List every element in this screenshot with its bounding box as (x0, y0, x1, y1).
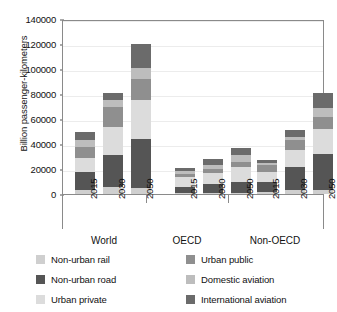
bar-segment-international-aviation (103, 93, 123, 101)
legend-item-domestic-aviation: Domestic aviation (186, 274, 274, 285)
bar-segment-international-aviation (75, 132, 95, 141)
bar-segment-domestic-aviation (75, 140, 95, 146)
legend-item-label: Non-urban rail (51, 254, 110, 265)
gridline (63, 71, 323, 72)
x-axis-group-label-non-oecd: Non-OECD (250, 235, 301, 246)
legend-item-label: International aviation (201, 294, 286, 305)
legend-item-label: Non-urban road (51, 274, 116, 285)
bar-segment-urban-public (257, 165, 277, 172)
x-axis-tick-label: 2015 (189, 179, 199, 199)
bar-segment-urban-public (75, 147, 95, 158)
gridline (63, 121, 323, 122)
x-axis-group-separator (228, 195, 229, 203)
x-axis-group-separator (146, 195, 147, 203)
x-axis-group-label-oecd: OECD (173, 235, 202, 246)
bar-segment-domestic-aviation (175, 171, 195, 174)
x-axis-band: 201520302050201520302050201520302050Worl… (62, 195, 324, 246)
legend-swatch-icon (36, 255, 45, 264)
x-axis-tick-label: 2050 (327, 179, 337, 199)
legend-item-international-aviation: International aviation (186, 294, 286, 305)
bar-segment-international-aviation (285, 130, 305, 136)
y-axis-tick-label: 20000 (31, 165, 56, 175)
x-axis-tick-label: 2030 (117, 179, 127, 199)
x-axis-group-separator (62, 195, 63, 229)
bar-segment-international-aviation (175, 168, 195, 171)
y-axis-tick-label: 120000 (25, 40, 56, 50)
y-axis-tick-label: 100000 (25, 65, 56, 75)
gridline (63, 146, 323, 147)
legend-item-urban-private: Urban private (36, 294, 107, 305)
legend-item-urban-public: Urban public (186, 254, 253, 265)
legend-swatch-icon (186, 295, 195, 304)
bar-segment-urban-public (175, 174, 195, 177)
legend-swatch-icon (186, 275, 195, 284)
legend-item-non-urban-rail: Non-urban rail (36, 254, 110, 265)
bar-segment-international-aviation (231, 148, 251, 156)
bar-segment-domestic-aviation (313, 108, 333, 117)
bar-segment-urban-private (75, 158, 95, 172)
bar-segment-urban-private (313, 129, 333, 154)
y-axis-tick-labels: 020000400006000080000100000120000140000 (6, 14, 60, 202)
bar-segment-urban-private (103, 127, 123, 156)
x-axis-group-label-world: World (91, 235, 117, 246)
legend-item-label: Urban private (51, 294, 107, 305)
bar-segment-urban-public (131, 79, 151, 100)
y-axis-tick-label: 140000 (25, 15, 56, 25)
legend-item-non-urban-road: Non-urban road (36, 274, 116, 285)
legend-swatch-icon (36, 275, 45, 284)
bar-segment-international-aviation (203, 159, 223, 165)
y-axis-tick-label: 40000 (31, 140, 56, 150)
legend-item-label: Urban public (201, 254, 253, 265)
y-axis-tick-label: 60000 (31, 115, 56, 125)
bar-segment-international-aviation (131, 44, 151, 68)
x-axis-tick-label: 2030 (217, 179, 227, 199)
bar-segment-urban-private (285, 150, 305, 168)
bar-segment-urban-public (313, 117, 333, 130)
gridline (63, 21, 323, 22)
x-axis-tick-label: 2015 (271, 179, 281, 199)
bar-segment-international-aviation (313, 93, 333, 108)
x-axis-tick-label: 2030 (299, 179, 309, 199)
gridline (63, 96, 323, 97)
plot-axes (62, 20, 324, 195)
gridline (63, 46, 323, 47)
bar-segment-domestic-aviation (231, 155, 251, 161)
bar-segment-urban-public (231, 162, 251, 167)
y-axis-tick-label: 0 (51, 190, 56, 200)
legend-swatch-icon (36, 295, 45, 304)
chart-legend: Non-urban railNon-urban roadUrban privat… (0, 248, 332, 312)
bar-segment-urban-public (103, 107, 123, 127)
bar-segment-domestic-aviation (131, 68, 151, 79)
legend-item-label: Domestic aviation (201, 274, 274, 285)
bar-segment-domestic-aviation (257, 163, 277, 165)
plot-area-wrapper: Billion passenger-kilometers 02000040000… (0, 0, 332, 246)
bar-segment-domestic-aviation (285, 137, 305, 141)
x-axis-tick-label: 2015 (89, 179, 99, 199)
x-axis-tick-label: 2050 (245, 179, 255, 199)
bar-segment-urban-public (203, 169, 223, 173)
bar-segment-international-aviation (257, 160, 277, 163)
y-axis-tick-label: 80000 (31, 90, 56, 100)
bar-segment-domestic-aviation (203, 165, 223, 169)
bar-segment-urban-public (285, 140, 305, 149)
x-axis-group-separator (323, 195, 324, 229)
legend-swatch-icon (186, 255, 195, 264)
bar-segment-urban-private (131, 100, 151, 139)
bar-segment-domestic-aviation (103, 100, 123, 106)
